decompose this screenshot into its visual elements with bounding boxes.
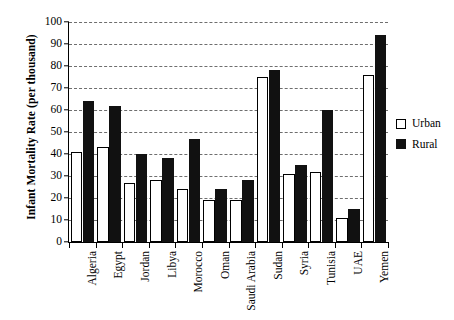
x-axis-tick-mark [229, 242, 230, 248]
x-axis-tick-mark [175, 242, 176, 248]
chart-legend: Urban Rural [396, 118, 441, 159]
bar-group [69, 22, 96, 242]
y-axis-tick-label: 90 [16, 38, 62, 50]
bar-urban [363, 75, 375, 242]
x-axis-tick-mark [202, 242, 203, 248]
bar-urban [230, 200, 242, 242]
bar-rural [109, 106, 121, 242]
y-axis-tick-label: 0 [16, 236, 62, 248]
legend-item-label: Urban [412, 118, 441, 130]
legend-item-label: Rural [412, 139, 438, 151]
y-axis-tick-label: 60 [16, 104, 62, 116]
x-axis-tick-mark [69, 242, 70, 248]
x-axis-tick-mark [335, 242, 336, 248]
plot-area: 0102030405060708090100AlgeriaEgyptJordan… [68, 22, 388, 243]
y-axis-tick-label: 20 [16, 192, 62, 204]
bar-urban [203, 200, 215, 242]
x-axis-tick-mark [255, 242, 256, 248]
bar-urban [310, 172, 322, 242]
bar-urban [97, 147, 109, 242]
x-axis-tick-mark [122, 242, 123, 248]
y-axis-tick-label: 100 [16, 16, 62, 28]
y-axis-tick-label: 80 [16, 60, 62, 72]
bar-urban [71, 152, 83, 242]
y-axis-tick-label: 40 [16, 148, 62, 160]
bar-group [335, 22, 362, 242]
filled-square-icon [396, 139, 406, 149]
bar-rural [375, 35, 387, 242]
y-axis-tick-label: 10 [16, 214, 62, 226]
x-axis-tick-mark [149, 242, 150, 248]
y-axis-tick-label: 70 [16, 82, 62, 94]
bar-group [255, 22, 282, 242]
bar-group [202, 22, 229, 242]
legend-item-rural: Rural [396, 139, 441, 151]
x-axis-tick-mark [361, 242, 362, 248]
bar-urban [124, 183, 136, 242]
legend-item-urban: Urban [396, 118, 441, 130]
x-axis-tick-mark [308, 242, 309, 248]
y-axis-tick-label: 30 [16, 170, 62, 182]
bar-rural [269, 70, 281, 242]
bar-group [308, 22, 335, 242]
bar-group [282, 22, 309, 242]
bar-urban [283, 174, 295, 242]
bar-urban [336, 218, 348, 242]
bar-group [361, 22, 388, 242]
x-axis-tick-mark [282, 242, 283, 248]
bar-urban [257, 77, 269, 242]
bar-group [149, 22, 176, 242]
infant-mortality-bar-chart: Infant Mortality Rate (per thousand) 010… [0, 0, 454, 320]
x-axis-tick-mark [96, 242, 97, 248]
bar-urban [177, 189, 189, 242]
y-axis-tick-label: 50 [16, 126, 62, 138]
bar-urban [150, 180, 162, 242]
open-square-icon [396, 119, 406, 129]
bar-group [96, 22, 123, 242]
bar-group [122, 22, 149, 242]
x-axis-category-label: Yemen [379, 219, 391, 251]
